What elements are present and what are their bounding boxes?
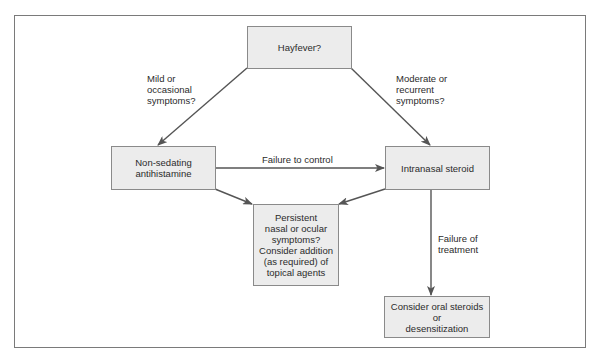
node-text: desensitization bbox=[391, 323, 483, 334]
arrow-intranasal-to-persistent bbox=[339, 189, 385, 204]
node-text: antihistamine bbox=[135, 168, 192, 179]
node-text: Persistent bbox=[259, 212, 333, 223]
node-text: Hayfever? bbox=[278, 42, 321, 53]
node-text: topical agents bbox=[259, 267, 333, 278]
edge-label-line: symptoms? bbox=[147, 95, 196, 106]
node-text: Non-sedating bbox=[135, 157, 192, 168]
node-text: Consider oral steroids bbox=[391, 301, 483, 312]
edge-label-mild: Mild or occasional symptoms? bbox=[147, 73, 196, 106]
node-persistent-symptoms: Persistent nasal or ocular symptoms? Con… bbox=[253, 204, 339, 286]
node-text: Intranasal steroid bbox=[401, 163, 474, 174]
edge-label-line: Moderate or bbox=[396, 73, 447, 84]
node-text: nasal or ocular bbox=[259, 223, 333, 234]
node-non-sedating-antihistamine: Non-sedating antihistamine bbox=[111, 146, 216, 190]
node-text: symptoms? bbox=[259, 234, 333, 245]
arrow-antihistamine-to-persistent bbox=[215, 189, 252, 204]
edge-label-failure-of-treatment: Failure of treatment bbox=[438, 233, 478, 255]
edge-label-failure-to-control: Failure to control bbox=[262, 154, 333, 165]
edge-label-moderate: Moderate or recurrent symptoms? bbox=[396, 73, 447, 106]
node-hayfever: Hayfever? bbox=[247, 26, 352, 69]
edge-label-line: symptoms? bbox=[396, 95, 447, 106]
edge-label-line: occasional bbox=[147, 84, 196, 95]
node-text: (as required) of bbox=[259, 256, 333, 267]
edge-label-line: Failure of bbox=[438, 233, 478, 244]
node-oral-steroids-desensitization: Consider oral steroids or desensitizatio… bbox=[384, 296, 490, 338]
edge-label-line: recurrent bbox=[396, 84, 447, 95]
node-text: or bbox=[391, 312, 483, 323]
edge-label-line: Mild or bbox=[147, 73, 196, 84]
edge-label-line: treatment bbox=[438, 244, 478, 255]
edge-label-line: Failure to control bbox=[262, 154, 333, 165]
node-intranasal-steroid: Intranasal steroid bbox=[385, 146, 490, 190]
node-text: Consider addition bbox=[259, 245, 333, 256]
